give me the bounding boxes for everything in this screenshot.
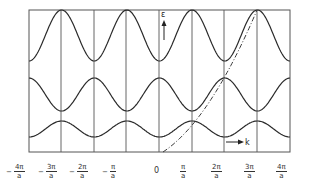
band-2-middle: [29, 78, 290, 111]
diagram-frame: [29, 10, 290, 152]
tick-fraction: 2πa: [211, 163, 222, 180]
tick-denominator: a: [49, 172, 53, 180]
zone-boundary-lines: [61, 10, 257, 152]
k-tick-label: 2πa: [211, 163, 222, 180]
tick-fraction: 3πa: [244, 163, 255, 180]
tick-denominator: a: [279, 172, 283, 180]
tick-fraction: πa: [180, 163, 186, 180]
tick-sign: −: [38, 168, 44, 176]
tick-numerator: 4π: [14, 163, 25, 172]
k-tick-label: −4πa: [6, 163, 25, 180]
tick-fraction: 3πa: [46, 163, 57, 180]
wavevector-axis-label: k: [245, 138, 250, 147]
tick-denominator: a: [214, 172, 218, 180]
band-structure-diagram: ε k: [0, 0, 309, 188]
right-arrowhead-icon: [238, 140, 244, 145]
wavevector-axis-indicator: k: [226, 138, 250, 147]
energy-axis-indicator: ε: [161, 10, 167, 40]
tick-denominator: a: [111, 172, 115, 180]
band-3-top: [29, 10, 290, 61]
tick-sign: −: [102, 168, 108, 176]
tick-fraction: 2πa: [77, 163, 88, 180]
tick-sign: −: [6, 168, 12, 176]
k-tick-label: 3πa: [244, 163, 255, 180]
band-1-bottom: [29, 121, 290, 137]
k-tick-label: 0: [154, 167, 159, 175]
up-arrowhead-icon: [162, 20, 167, 26]
tick-denominator: a: [80, 172, 84, 180]
tick-numerator: π: [180, 163, 186, 172]
energy-axis-label: ε: [161, 10, 165, 19]
tick-denominator: a: [181, 172, 185, 180]
k-tick-label: −πa: [102, 163, 116, 180]
tick-numerator: 4π: [276, 163, 287, 172]
tick-numerator: 3π: [46, 163, 57, 172]
tick-numerator: 3π: [244, 163, 255, 172]
tick-numerator: 2π: [77, 163, 88, 172]
tick-zero: 0: [154, 166, 159, 175]
tick-numerator: π: [110, 163, 116, 172]
k-tick-label: 4πa: [276, 163, 287, 180]
tick-numerator: 2π: [211, 163, 222, 172]
k-tick-label: πa: [180, 163, 186, 180]
tick-fraction: πa: [110, 163, 116, 180]
k-tick-label: −3πa: [38, 163, 57, 180]
tick-denominator: a: [17, 172, 21, 180]
energy-bands: [29, 10, 290, 137]
tick-fraction: 4πa: [276, 163, 287, 180]
tick-fraction: 4πa: [14, 163, 25, 180]
tick-sign: −: [69, 168, 75, 176]
tick-denominator: a: [247, 172, 251, 180]
k-tick-label: −2πa: [69, 163, 88, 180]
